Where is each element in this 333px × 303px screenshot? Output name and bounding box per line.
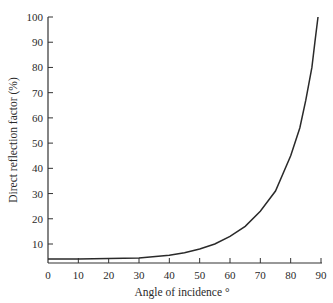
x-tick-label: 0 bbox=[45, 269, 51, 281]
x-tick-label: 30 bbox=[134, 269, 146, 281]
x-axis-title: Angle of incidence ° bbox=[135, 286, 230, 299]
x-tick-label: 90 bbox=[316, 269, 328, 281]
y-tick-label: 10 bbox=[32, 238, 44, 250]
y-tick-label: 90 bbox=[32, 36, 44, 48]
y-ticks: 102030405060708090100 bbox=[27, 11, 54, 250]
x-ticks: 0102030405060708090 bbox=[45, 258, 327, 281]
x-tick-label: 80 bbox=[285, 269, 297, 281]
y-tick-label: 40 bbox=[32, 162, 44, 174]
y-axis-title: Direct reflection factor (%) bbox=[7, 77, 20, 203]
y-tick-label: 60 bbox=[32, 112, 44, 124]
x-tick-label: 50 bbox=[194, 269, 206, 281]
y-tick-label: 70 bbox=[32, 87, 44, 99]
x-tick-label: 40 bbox=[164, 269, 176, 281]
y-tick-label: 80 bbox=[32, 61, 44, 73]
y-tick-label: 50 bbox=[32, 137, 44, 149]
x-tick-label: 70 bbox=[255, 269, 267, 281]
y-tick-label: 20 bbox=[32, 213, 44, 225]
reflection-chart: 102030405060708090100 010203040506070809… bbox=[0, 0, 333, 303]
y-tick-label: 30 bbox=[32, 188, 44, 200]
x-tick-label: 20 bbox=[103, 269, 115, 281]
x-tick-label: 10 bbox=[73, 269, 85, 281]
x-tick-label: 60 bbox=[225, 269, 237, 281]
reflection-curve bbox=[48, 17, 318, 259]
axes bbox=[48, 17, 322, 263]
y-tick-label: 100 bbox=[27, 11, 44, 23]
